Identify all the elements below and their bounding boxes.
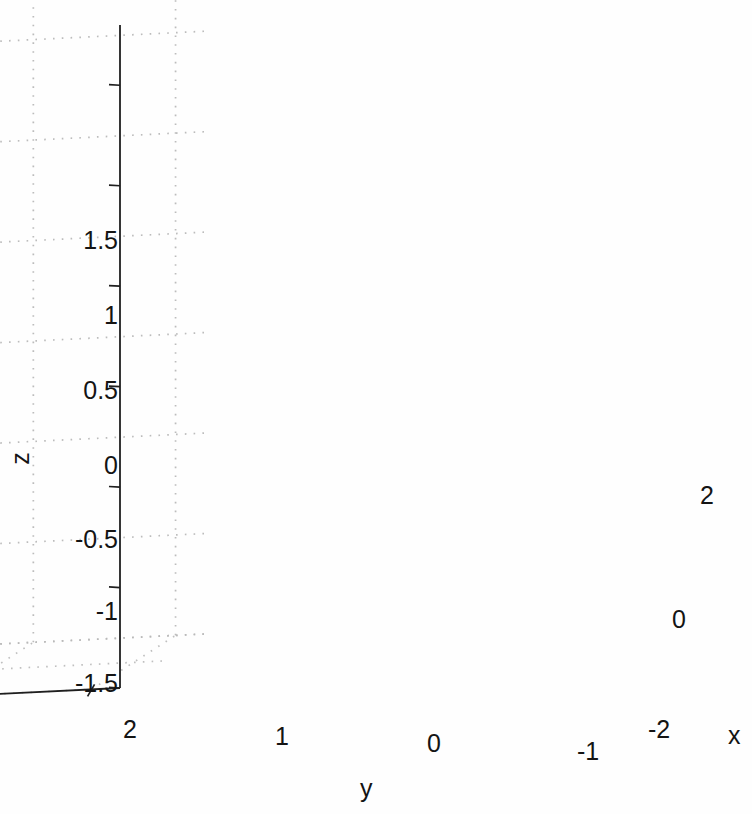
y-tick-label-2: 1 xyxy=(222,724,342,749)
z-axis-title: z xyxy=(8,452,33,465)
z-tick-label-3: 0.5 xyxy=(0,378,118,403)
z-tick-label-1: 1.5 xyxy=(0,228,118,253)
z-tick-label-6: -1 xyxy=(0,599,118,624)
x-tick-label-3: 2 xyxy=(700,483,714,508)
x-axis-title: x xyxy=(728,723,741,748)
x-tick-label-2: 0 xyxy=(672,607,686,632)
z-tick-label-5: -0.5 xyxy=(0,527,118,552)
x-tick-label-1: -2 xyxy=(648,717,670,742)
figure-canvas: 1.5 1 0.5 0 -0.5 -1 -1.5 2 1 0 -1 -2 0 2… xyxy=(0,0,752,814)
y-axis-title: y xyxy=(360,776,373,801)
z-tick-label-2: 1 xyxy=(0,303,118,328)
y-tick-label-4: -1 xyxy=(528,739,648,764)
z-tick-label-7: -1.5 xyxy=(0,671,118,696)
y-tick-label-3: 0 xyxy=(374,731,494,756)
y-tick-label-1: 2 xyxy=(70,717,190,742)
